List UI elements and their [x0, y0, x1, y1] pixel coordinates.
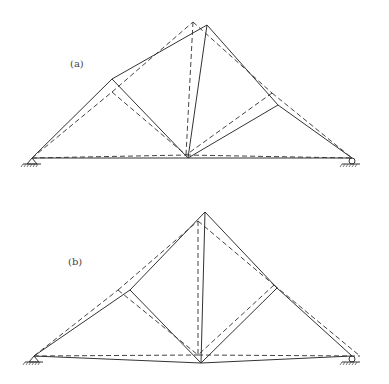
member-solid-P1-C [112, 79, 188, 158]
member-dashed-L-P1 [32, 92, 112, 158]
member-solid-L-P1 [32, 79, 112, 158]
member-dashed-P2-R [274, 285, 360, 356]
member-solid-C-R [201, 356, 352, 363]
member-solid-A-P2 [205, 212, 277, 288]
pin-support-icon [23, 356, 43, 365]
member-dashed-P1-C [118, 290, 198, 355]
member-solid-P2-R [277, 288, 352, 356]
member-solid-P2-C [201, 288, 277, 363]
panel-label-a: (a) [70, 58, 84, 69]
member-dashed-A-P2 [198, 221, 274, 285]
member-solid-P2-C [188, 105, 278, 158]
member-solid-P1-A [112, 25, 207, 79]
member-dashed-A-C [186, 22, 193, 155]
roller-support-icon [340, 158, 360, 167]
member-dashed-A-P2 [193, 22, 272, 93]
member-solid-A-C [201, 212, 205, 363]
member-dashed-C-R [198, 355, 360, 356]
member-solid-L-C [34, 356, 201, 363]
member-solid-A-C [188, 25, 207, 158]
pin-support-icon [21, 158, 41, 167]
member-dashed-P2-C [198, 285, 274, 355]
member-dashed-P2-R [272, 93, 352, 158]
member-solid-A-P2 [207, 25, 278, 105]
truss-diagram [0, 0, 389, 384]
member-solid-P1-A [130, 212, 205, 290]
member-dashed-L-P1 [34, 290, 118, 356]
roller-support-icon [340, 356, 360, 365]
member-dashed-P1-A [112, 22, 193, 92]
member-dashed-P1-C [112, 92, 186, 155]
panel-label-b: (b) [68, 256, 82, 267]
member-dashed-P2-C [186, 93, 272, 155]
member-solid-P2-R [278, 105, 352, 158]
member-solid-P1-C [130, 290, 201, 363]
truss-figure: (a) (b) [0, 0, 389, 384]
member-solid-L-P1 [34, 290, 130, 356]
member-dashed-L-C [34, 355, 198, 356]
